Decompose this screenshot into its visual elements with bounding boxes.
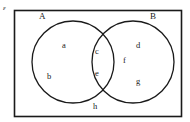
region-label-e: e [95, 69, 99, 78]
set-b-label: B [150, 12, 156, 21]
venn-diagram: ε A B a b c e d f g h [0, 0, 190, 122]
region-label-a: a [62, 41, 66, 50]
region-label-c: c [95, 47, 99, 56]
region-label-b: b [47, 72, 51, 81]
set-a-label: A [39, 12, 46, 21]
region-label-g: g [136, 77, 140, 86]
region-label-f: f [123, 56, 126, 65]
region-label-h: h [93, 102, 97, 111]
universal-set-label: ε [3, 5, 6, 12]
region-label-d: d [136, 41, 140, 50]
universal-set-rectangle [15, 11, 182, 117]
